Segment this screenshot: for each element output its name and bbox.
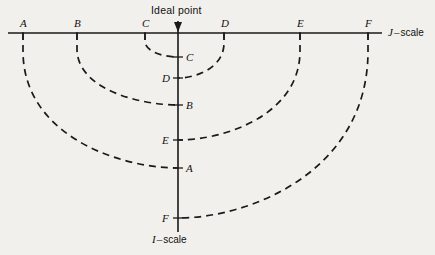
i-scale-point-label-f: F: [162, 213, 169, 224]
j-scale-point-label-a: A: [20, 18, 27, 29]
j-scale-label: J–scale: [388, 27, 424, 38]
fold-curve-b: [77, 33, 178, 105]
i-scale-point-label-e: E: [162, 135, 169, 146]
i-scale-point-label-a: A: [186, 163, 193, 174]
i-scale-label: I–scale: [152, 234, 187, 245]
ideal-point-arrow-icon: [174, 22, 182, 32]
fold-curves-group: [23, 33, 368, 218]
j-scale-word: scale: [400, 27, 423, 38]
j-scale-point-label-e: E: [297, 18, 304, 29]
ideal-point-label: Ideal point: [151, 5, 202, 16]
j-scale-point-label-c: C: [142, 18, 149, 29]
fold-curve-c: [145, 33, 178, 57]
diagram-canvas: [0, 0, 435, 255]
axes-group: [8, 21, 382, 232]
j-scale-point-label-b: B: [74, 18, 81, 29]
j-scale-point-label-f: F: [365, 18, 372, 29]
fold-curve-e: [178, 33, 300, 140]
i-scale-point-label-b: B: [186, 100, 193, 111]
j-scale-point-label-d: D: [221, 18, 229, 29]
unfolding-diagram: Ideal point J–scale I–scale ABCDEFCDBEAF: [0, 0, 435, 255]
i-scale-point-label-d: D: [162, 73, 170, 84]
fold-curve-d: [178, 33, 224, 78]
fold-curve-f: [178, 33, 368, 218]
i-scale-point-label-c: C: [186, 52, 193, 63]
i-scale-word: scale: [163, 234, 186, 245]
